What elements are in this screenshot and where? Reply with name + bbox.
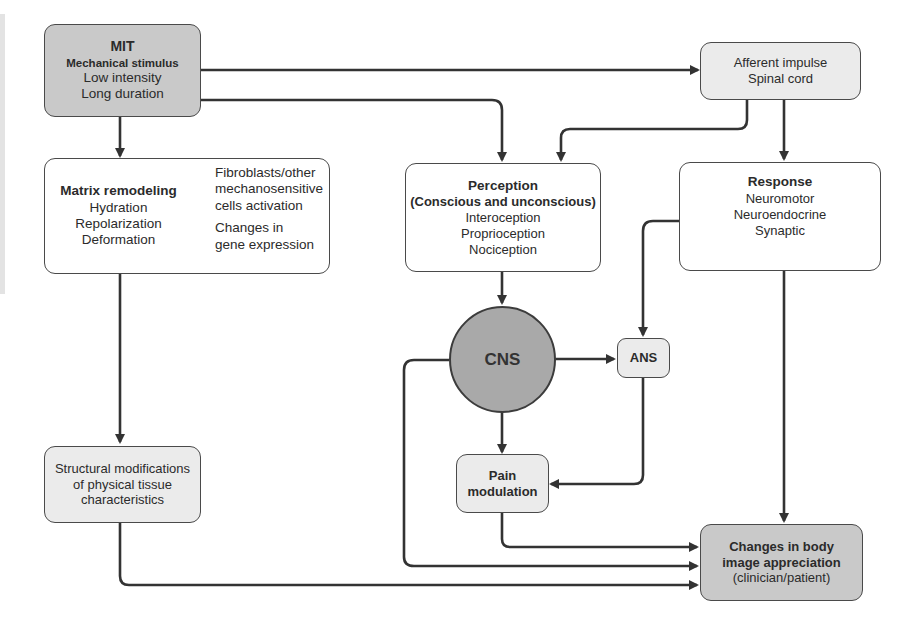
node-perception: Perception (Conscious and unconscious) I…	[405, 163, 601, 272]
edge-cns-changes	[404, 360, 697, 566]
mit-subtitle: Mechanical stimulus	[66, 56, 178, 70]
node-cns: CNS	[449, 306, 556, 413]
response-title: Response	[748, 174, 813, 190]
mit-line-1: Low intensity	[83, 70, 161, 86]
changes-note: (clinician/patient)	[733, 570, 831, 586]
mit-line-2: Long duration	[81, 86, 164, 102]
matrix-line-1: Hydration	[90, 200, 148, 216]
node-structural-modifications: Structural modifications of physical tis…	[44, 446, 201, 523]
changes-line-2: image appreciation	[722, 555, 840, 571]
edge-afferent-perception	[561, 99, 747, 160]
bracket-item-2: mechanosensitive	[215, 181, 323, 197]
edge-mit-perception	[200, 100, 502, 160]
bracket-item-5: gene expression	[215, 237, 323, 253]
bracket-item-3: cells activation	[215, 198, 323, 214]
pain-line-2: modulation	[467, 484, 537, 500]
response-line-1: Neuromotor	[746, 191, 815, 207]
matrix-line-2: Repolarization	[75, 216, 161, 232]
matrix-bracket-items: Fibroblasts/other mechanosensitive cells…	[215, 165, 323, 253]
edge-structural-changes	[120, 522, 697, 585]
bracket-item-4: Changes in	[215, 220, 323, 236]
node-afferent-impulse: Afferent impulse Spinal cord	[700, 42, 861, 100]
matrix-line-3: Deformation	[82, 232, 156, 248]
node-pain-modulation: Pain modulation	[456, 454, 549, 513]
node-response: Response Neuromotor Neuroendocrine Synap…	[679, 162, 881, 271]
structural-line-1: Structural modifications	[55, 461, 190, 477]
perception-subtitle: (Conscious and unconscious)	[410, 194, 596, 210]
pain-line-1: Pain	[489, 468, 516, 484]
edge-ans-pain	[551, 377, 643, 484]
matrix-title: Matrix remodeling	[60, 183, 176, 199]
structural-line-3: characteristics	[81, 492, 164, 508]
mit-title: MIT	[110, 38, 134, 55]
edge-pain-changes	[502, 512, 697, 547]
bracket-item-1: Fibroblasts/other	[215, 165, 323, 181]
afferent-line-1: Afferent impulse	[734, 55, 828, 71]
node-matrix-remodeling: Matrix remodeling Hydration Repolarizati…	[44, 158, 330, 274]
edge-response-ans	[643, 221, 679, 335]
node-mit: MIT Mechanical stimulus Low intensity Lo…	[44, 24, 201, 117]
node-ans: ANS	[617, 338, 670, 378]
ans-label: ANS	[630, 350, 657, 366]
afferent-line-2: Spinal cord	[748, 71, 813, 87]
perception-line-2: Proprioception	[461, 226, 545, 242]
perception-title: Perception	[468, 178, 538, 194]
matrix-left-column: Matrix remodeling Hydration Repolarizati…	[45, 159, 186, 273]
response-line-2: Neuroendocrine	[734, 207, 827, 223]
response-line-3: Synaptic	[755, 223, 805, 239]
node-changes-body-image: Changes in body image appreciation (clin…	[700, 524, 863, 601]
perception-line-1: Interoception	[465, 210, 540, 226]
cns-label: CNS	[485, 350, 521, 370]
structural-line-2: of physical tissue	[73, 477, 172, 493]
perception-line-3: Nociception	[469, 242, 537, 258]
changes-line-1: Changes in body	[729, 539, 834, 555]
